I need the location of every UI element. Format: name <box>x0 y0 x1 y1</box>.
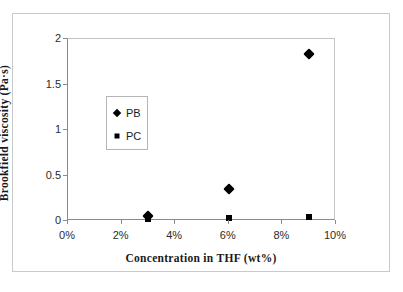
x-tick-mark <box>335 220 336 224</box>
x-tick-label: 10% <box>313 229 357 241</box>
legend-entry-pb: PB <box>113 107 141 119</box>
x-tick-label: 2% <box>99 229 143 241</box>
data-point-pc <box>145 216 151 222</box>
y-tick-label: 1 <box>27 123 61 135</box>
x-tick-mark <box>67 220 68 224</box>
y-tick-label: 1.5 <box>27 78 61 90</box>
y-tick-label: 2 <box>27 32 61 44</box>
x-tick-mark <box>281 220 282 224</box>
legend-label: PC <box>126 130 141 142</box>
chart-figure: Brookfield viscosity (Pa·s) 00.511.52 0%… <box>0 0 403 292</box>
y-tick-label: 0.5 <box>27 169 61 181</box>
data-point-pc <box>226 215 232 221</box>
x-axis-title: Concentration in THF (wt%) <box>67 252 335 264</box>
legend-marker-diamond-icon <box>113 109 121 117</box>
y-axis-title: Brookfield viscosity (Pa·s) <box>0 18 10 248</box>
x-tick-mark <box>121 220 122 224</box>
legend-label: PB <box>126 107 141 119</box>
x-tick-label: 8% <box>259 229 303 241</box>
data-point-pb <box>223 183 234 194</box>
x-tick-mark <box>228 220 229 224</box>
chart-legend: PBPC <box>106 96 148 150</box>
y-tick-label: 0 <box>27 214 61 226</box>
x-tick-label: 0% <box>45 229 89 241</box>
x-tick-mark <box>174 220 175 224</box>
data-point-pb <box>304 49 315 60</box>
x-tick-label: 6% <box>206 229 250 241</box>
legend-entry-pc: PC <box>113 130 141 142</box>
legend-marker-square-icon <box>113 132 121 140</box>
x-tick-label: 4% <box>152 229 196 241</box>
data-point-pc <box>306 214 312 220</box>
